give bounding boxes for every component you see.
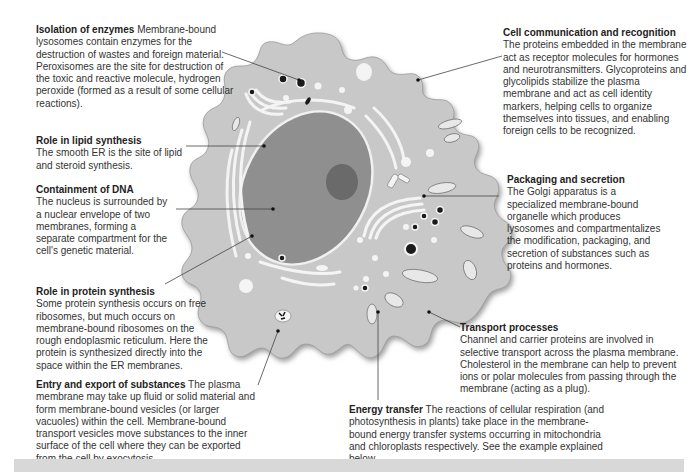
label-heading: Containment of DNA	[36, 184, 171, 196]
label-heading: Role in lipid synthesis	[36, 135, 196, 147]
label-entry-and-export-of-substances: Entry and export of substances The plasm…	[36, 379, 258, 465]
label-role-in-protein-synthesis: Role in protein synthesis Some protein s…	[36, 286, 222, 372]
label-heading: Packaging and secretion	[507, 174, 667, 186]
label-body: Membrane-bound lysosomes contain enzymes…	[36, 24, 233, 109]
label-energy-transfer: Energy transfer The reactions of cellula…	[349, 404, 605, 465]
label-cell-communication-and-recognition: Cell communication and recognition The p…	[503, 27, 689, 138]
label-role-in-lipid-synthesis: Role in lipid synthesis The smooth ER is…	[36, 135, 196, 172]
label-heading: Cell communication and recognition	[503, 27, 689, 39]
label-heading: Transport processes	[460, 322, 684, 334]
nucleolus	[326, 164, 358, 200]
label-body: The proteins embedded in the membrane ac…	[503, 39, 686, 136]
label-body: The smooth ER is the site of lipid and s…	[36, 147, 182, 170]
label-heading: Role in protein synthesis	[36, 286, 222, 298]
label-packaging-and-secretion: Packaging and secretion The Golgi appara…	[507, 174, 667, 272]
label-heading: Energy transfer	[349, 404, 423, 415]
footer-bar	[14, 459, 684, 472]
label-heading: Entry and export of substances	[36, 379, 185, 390]
label-containment-of-dna: Containment of DNA The nucleus is surrou…	[36, 184, 171, 258]
label-isolation-of-enzymes: Isolation of enzymes Membrane-bound lyso…	[36, 24, 236, 110]
phagocytic-vesicle	[275, 310, 291, 322]
label-body: The plasma membrane may take up fluid or…	[36, 379, 255, 464]
label-body: The Golgi apparatus is a specialized mem…	[507, 186, 660, 271]
label-heading: Isolation of enzymes	[36, 24, 134, 35]
label-body: Some protein synthesis occurs on free ri…	[36, 298, 208, 370]
label-transport-processes: Transport processes Channel and carrier …	[460, 322, 684, 396]
label-body: The nucleus is surrounded by a nuclear e…	[36, 196, 167, 256]
label-body: Channel and carrier proteins are involve…	[460, 334, 678, 394]
